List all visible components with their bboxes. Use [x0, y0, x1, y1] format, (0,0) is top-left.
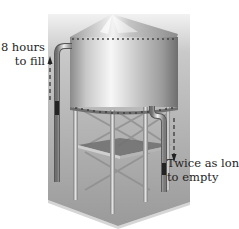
fill-time-label: 8 hours to fill [1, 40, 45, 68]
water-tank-illustration [0, 0, 239, 229]
empty-time-label: Twice as long to empty [167, 156, 239, 184]
empty-time-line-1: Twice as long [167, 156, 239, 170]
tank-body [70, 37, 178, 107]
tower-leg [73, 106, 78, 200]
fill-time-line-2: to fill [1, 54, 45, 68]
empty-time-line-2: to empty [167, 170, 239, 184]
tower-leg [110, 110, 115, 214]
inlet-valve [55, 101, 59, 115]
fill-time-line-1: 8 hours [1, 40, 45, 54]
tower-leg [143, 106, 148, 202]
outlet-valve [162, 163, 166, 175]
